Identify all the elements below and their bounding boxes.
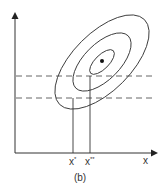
x-axis-arrow-icon [151,150,158,157]
x-axis-label: x [143,155,148,166]
x-double-star-label: x** [85,156,95,167]
y-axis-arrow-icon [12,12,19,19]
optimum-point [100,59,104,63]
x-star-label: x* [69,156,77,167]
figure-caption: (b) [74,172,86,183]
diagram-canvas: x* x** x (b) [0,0,168,195]
